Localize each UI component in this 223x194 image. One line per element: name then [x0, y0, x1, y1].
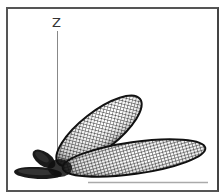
radiation-pattern-diagram: Z — [0, 0, 223, 194]
z-axis-label: Z — [52, 15, 61, 30]
origin-junction — [48, 159, 72, 177]
